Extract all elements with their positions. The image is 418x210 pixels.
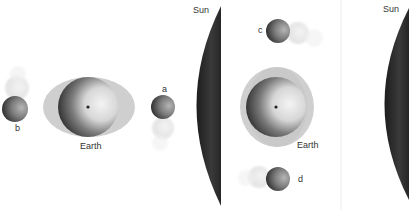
panel-right bbox=[385, 8, 410, 200]
earth-center-dot bbox=[86, 105, 89, 108]
moon-c-label: c bbox=[258, 25, 263, 35]
sun-label-right: Sun bbox=[383, 4, 399, 14]
moon-b-trail bbox=[5, 66, 29, 100]
moon-d bbox=[266, 167, 290, 191]
moon-c-trail bbox=[287, 22, 323, 47]
moon-d-label: d bbox=[298, 174, 303, 184]
panel-middle bbox=[238, 19, 323, 191]
sun-arc-left bbox=[197, 6, 222, 206]
moon-b bbox=[2, 96, 28, 122]
diagram-canvas bbox=[0, 0, 418, 210]
tides-diagram: Earth Sun a b Earth c d Sun bbox=[0, 0, 418, 210]
sun-label-left: Sun bbox=[193, 5, 209, 15]
panel-left bbox=[2, 6, 221, 206]
moon-a-trail bbox=[152, 117, 174, 151]
moon-a-label: a bbox=[162, 84, 167, 94]
earth-center-dot-2 bbox=[274, 105, 277, 108]
earth-label-left: Earth bbox=[80, 141, 102, 151]
moon-d-trail bbox=[238, 166, 270, 188]
moon-b-label: b bbox=[15, 123, 20, 133]
sun-arc-right bbox=[385, 8, 410, 200]
moon-a bbox=[151, 95, 175, 119]
moon-c bbox=[266, 19, 290, 43]
earth-label-middle: Earth bbox=[297, 140, 319, 150]
